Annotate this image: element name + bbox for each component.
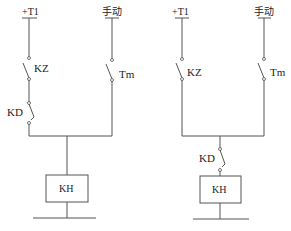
kz-label: KZ — [34, 62, 49, 74]
kz-switch-blade — [23, 63, 29, 78]
kd-switch-blade — [220, 150, 225, 164]
manual-label: 手动 — [254, 5, 274, 17]
tm-label: Tm — [270, 66, 286, 78]
relay-kh-label: KH — [212, 184, 226, 195]
tm-switch-blade — [258, 63, 264, 78]
circuit-diagram: +T1 KZ KD 手动 Tm KH +T1 — [0, 0, 291, 231]
supply-label-t1: +T1 — [22, 6, 39, 17]
tm-switch-blade — [106, 64, 112, 79]
relay-kh-label: KH — [59, 183, 73, 194]
supply-label-t1: +T1 — [172, 6, 189, 17]
circuit-b: +T1 KZ 手动 Tm KD KH — [172, 5, 286, 219]
kz-switch-blade — [176, 63, 182, 78]
kd-label: KD — [7, 106, 23, 118]
manual-label: 手动 — [102, 5, 122, 17]
contact-terminal — [263, 58, 266, 61]
contact-terminal — [181, 58, 184, 61]
kd-switch-blade — [29, 104, 34, 117]
kd-switch-hook — [31, 117, 34, 120]
contact-terminal — [28, 57, 31, 60]
contact-terminal — [111, 59, 114, 62]
circuit-a: +T1 KZ KD 手动 Tm KH — [7, 5, 135, 218]
kd-switch-hook — [222, 164, 225, 167]
tm-label: Tm — [119, 68, 135, 80]
kz-label: KZ — [187, 66, 202, 78]
kd-label: KD — [199, 152, 215, 164]
